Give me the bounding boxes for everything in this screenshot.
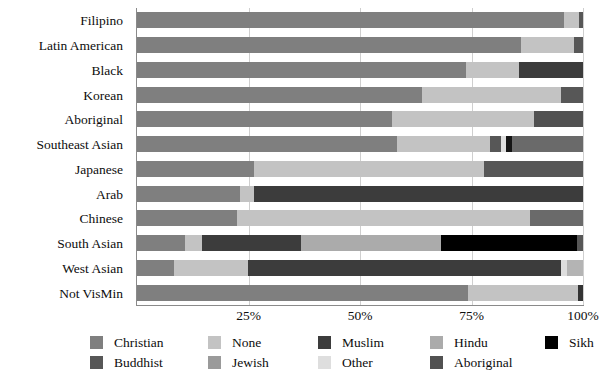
bar-west-asian xyxy=(137,260,583,276)
bar-segment-muslim xyxy=(248,260,561,276)
y-axis-label-black: Black xyxy=(92,64,124,78)
bar-not-vismin xyxy=(137,285,583,301)
bar-segment-hindu xyxy=(301,235,441,251)
legend-swatch-icon-none xyxy=(208,336,221,349)
bar-arab xyxy=(137,186,583,202)
x-tick-25: 25% xyxy=(236,309,261,323)
bar-segment-buddhist xyxy=(512,136,583,152)
bar-segment-buddhist xyxy=(577,235,583,251)
y-axis-label-aboriginal: Aboriginal xyxy=(65,113,124,127)
legend-swatch-icon-other xyxy=(318,356,331,369)
bar-segment-christian xyxy=(137,186,240,202)
plot-area xyxy=(137,8,583,305)
legend-item-aboriginal[interactable]: Aboriginal xyxy=(430,356,513,370)
bar-segment-none xyxy=(237,210,530,226)
y-axis-label-southeast-asian: Southeast Asian xyxy=(36,138,123,152)
bar-segment-none xyxy=(240,186,254,202)
bar-segment-none xyxy=(185,235,202,251)
bar-segment-christian xyxy=(137,235,185,251)
legend-label: Buddhist xyxy=(114,356,163,370)
legend-label: Hindu xyxy=(454,336,488,350)
y-axis-label-chinese: Chinese xyxy=(80,212,124,226)
y-axis-label-west-asian: West Asian xyxy=(62,262,123,276)
bar-segment-buddhist xyxy=(574,37,583,53)
bar-segment-christian xyxy=(137,12,564,28)
y-axis-label-japanese: Japanese xyxy=(75,163,123,177)
y-axis-label-korean: Korean xyxy=(83,89,123,103)
bar-segment-sikh xyxy=(441,235,577,251)
bar-segment-buddhist xyxy=(579,12,583,28)
legend-swatch-icon-muslim xyxy=(318,336,331,349)
bar-segment-buddhist xyxy=(561,87,583,103)
bar-segment-buddhist xyxy=(490,136,502,152)
legend-item-hindu[interactable]: Hindu xyxy=(430,336,488,350)
bar-segment-none xyxy=(466,62,519,78)
legend-label: Muslim xyxy=(342,336,384,350)
legend-label: Sikh xyxy=(569,336,594,350)
bar-segment-none xyxy=(521,37,574,53)
bar-segment-buddhist xyxy=(578,285,583,301)
legend-item-christian[interactable]: Christian xyxy=(90,336,164,350)
y-axis-labels: FilipinoLatin AmericanBlackKoreanAborigi… xyxy=(0,8,129,305)
legend-swatch-icon-hindu xyxy=(430,336,443,349)
bar-segment-christian xyxy=(137,210,237,226)
legend-item-jewish[interactable]: Jewish xyxy=(208,356,269,370)
bar-segment-muslim xyxy=(202,235,301,251)
bar-southeast-asian xyxy=(137,136,583,152)
x-axis-line xyxy=(136,305,584,306)
bar-segment-christian xyxy=(137,37,521,53)
legend-label: None xyxy=(232,336,261,350)
y-axis-label-not-vismin: Not VisMin xyxy=(59,287,123,301)
bar-segment-christian xyxy=(137,87,422,103)
bar-south-asian xyxy=(137,235,583,251)
bar-segment-christian xyxy=(137,260,174,276)
legend-label: Christian xyxy=(114,336,164,350)
bar-aboriginal xyxy=(137,111,583,127)
bar-chinese xyxy=(137,210,583,226)
bar-segment-christian xyxy=(137,62,466,78)
bar-segment-none xyxy=(174,260,248,276)
bar-segment-aboriginal xyxy=(534,111,583,127)
bar-filipino xyxy=(137,12,583,28)
chart-legend: ChristianBuddhistNoneJewishMuslimOtherHi… xyxy=(90,336,600,376)
bar-segment-none xyxy=(397,136,490,152)
legend-label: Jewish xyxy=(232,356,269,370)
bar-segment-christian xyxy=(137,136,397,152)
y-axis-label-filipino: Filipino xyxy=(80,14,123,28)
bar-segment-none xyxy=(392,111,534,127)
bar-segment-other xyxy=(561,260,568,276)
bar-segment-buddhist xyxy=(530,210,583,226)
bar-segment-christian xyxy=(137,161,254,177)
x-tick-50: 50% xyxy=(348,309,373,323)
x-tick-75: 75% xyxy=(459,309,484,323)
legend-label: Aboriginal xyxy=(454,356,513,370)
legend-swatch-icon-aboriginal xyxy=(430,356,443,369)
legend-label: Other xyxy=(342,356,373,370)
bar-segment-none xyxy=(422,87,560,103)
legend-item-muslim[interactable]: Muslim xyxy=(318,336,384,350)
bar-segment-buddhist xyxy=(484,161,583,177)
legend-item-buddhist[interactable]: Buddhist xyxy=(90,356,163,370)
legend-swatch-icon-christian xyxy=(90,336,103,349)
bar-korean xyxy=(137,87,583,103)
legend-item-other[interactable]: Other xyxy=(318,356,373,370)
x-axis-tick-labels: 25%50%75%100% xyxy=(137,309,583,329)
gridline-100 xyxy=(583,8,584,305)
legend-item-none[interactable]: None xyxy=(208,336,261,350)
x-tick-100: 100% xyxy=(567,309,599,323)
legend-swatch-icon-jewish xyxy=(208,356,221,369)
y-axis-label-latin-american: Latin American xyxy=(39,39,123,53)
bar-segment-none xyxy=(564,12,578,28)
bar-segment-none xyxy=(254,161,484,177)
bar-segment-christian xyxy=(137,111,392,127)
bar-segment-muslim xyxy=(519,62,583,78)
y-axis-label-south-asian: South Asian xyxy=(57,237,123,251)
bar-segment-christian xyxy=(137,285,468,301)
bar-segment-aboriginal xyxy=(567,260,583,276)
legend-swatch-icon-sikh xyxy=(545,336,558,349)
bar-segment-muslim xyxy=(254,186,583,202)
legend-item-sikh[interactable]: Sikh xyxy=(545,336,594,350)
y-axis-label-arab: Arab xyxy=(96,188,123,202)
stacked-bar-chart: FilipinoLatin AmericanBlackKoreanAborigi… xyxy=(0,0,612,381)
bar-black xyxy=(137,62,583,78)
